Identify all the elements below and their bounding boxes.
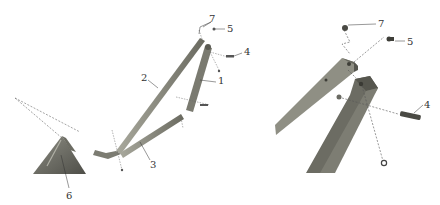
detail-view: 7 5 4 <box>275 18 430 173</box>
nut-icon <box>381 160 386 165</box>
assembly-diagram: 1 2 3 4 5 6 7 <box>0 0 440 205</box>
callout-3: 3 <box>150 159 156 170</box>
detail-callout-4: 4 <box>424 99 430 110</box>
part-6-triangle-base <box>33 136 86 174</box>
part-7-nut-icon <box>342 25 348 31</box>
detail-callout-5: 5 <box>407 36 413 47</box>
detail-callout-7: 7 <box>378 18 384 29</box>
callout-1: 1 <box>218 75 224 86</box>
hardware-pins <box>121 28 234 172</box>
overview-view: 1 2 3 4 5 6 7 <box>15 13 250 201</box>
part-5-bolt-icon <box>387 37 395 42</box>
washer-icon <box>337 95 342 100</box>
callout-7: 7 <box>209 13 215 24</box>
callout-2: 2 <box>141 72 147 83</box>
part-4-bolt-icon <box>226 55 234 58</box>
callout-4: 4 <box>244 46 250 57</box>
callout-5: 5 <box>227 23 233 34</box>
guide-lines <box>15 98 80 138</box>
part-4-pin-icon <box>400 111 422 120</box>
callout-6: 6 <box>66 190 72 201</box>
